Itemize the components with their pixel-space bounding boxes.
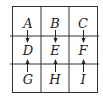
cell-label-f: F: [77, 43, 88, 58]
arrow-up-icon: [82, 59, 86, 72]
cell-label-i: I: [79, 72, 86, 87]
cell-label-a: A: [22, 16, 32, 31]
arrow-up-icon: [26, 59, 30, 72]
cell-labels: A B C D E F G H I: [22, 16, 89, 87]
grid-diagram: A B C D E F G H I: [0, 0, 103, 102]
cell-label-h: H: [48, 72, 61, 87]
arrow-up-icon: [54, 59, 58, 72]
cell-label-c: C: [78, 16, 88, 31]
cell-label-d: D: [22, 43, 34, 58]
cell-label-g: G: [23, 72, 33, 87]
cell-label-e: E: [49, 43, 60, 58]
cell-label-b: B: [49, 16, 60, 31]
